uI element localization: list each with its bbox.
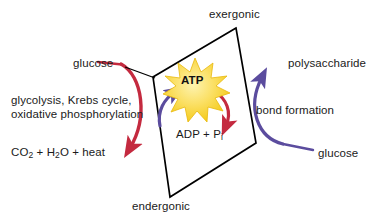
label-glucose-right: glucose xyxy=(318,147,358,161)
label-adp-pi: ADP + Pi xyxy=(176,128,223,145)
diagram-canvas: exergonic endergonic glucose glycolysis,… xyxy=(0,0,385,224)
adp-subscript: i xyxy=(221,132,223,142)
adp-text: ADP + P xyxy=(176,128,221,140)
label-bond-formation: bond formation xyxy=(256,104,334,118)
label-glucose-left: glucose xyxy=(73,57,113,71)
label-exergonic: exergonic xyxy=(209,8,260,22)
label-catabolic-pathway: glycolysis, Krebs cycle, oxidative phosp… xyxy=(11,93,143,121)
label-atp: ATP xyxy=(181,74,203,88)
label-polysaccharide: polysaccharide xyxy=(288,57,366,71)
label-endergonic: endergonic xyxy=(132,200,190,214)
atp-starburst-icon xyxy=(163,58,230,122)
label-co2-water-heat: CO2 + H2O + heat xyxy=(11,146,105,163)
co2-formula: CO2 + H2O + heat xyxy=(11,146,105,158)
